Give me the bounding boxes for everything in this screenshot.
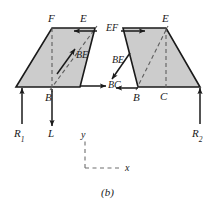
label-reaction-r1: R1 [14,128,24,142]
figure-caption: (b) [101,187,114,198]
label-reaction-r2-base: R [192,127,199,139]
label-right-base-b: B [133,92,140,103]
label-reaction-r2: R2 [192,128,202,142]
label-right-vertex-e: E [162,13,169,24]
figure-container: F E B E B C EF BC BE BE R1 L R2 y x (b) [0,0,218,208]
label-left-base-b: B [45,92,52,103]
right-member-group [123,26,200,90]
label-left-vertex-f: F [48,13,55,24]
label-right-base-c: C [160,91,167,102]
label-left-vertex-e: E [80,13,87,24]
label-axis-y: y [81,130,85,140]
label-force-be-right: BE [112,55,124,65]
label-load-l: L [48,128,54,139]
label-axis-x: x [125,163,129,173]
label-force-ef: EF [106,23,118,33]
label-force-be-left: BE [76,50,88,60]
label-force-bc: BC [108,80,121,90]
label-reaction-r1-subscript: 1 [21,135,25,144]
label-reaction-r1-base: R [14,127,21,139]
axis-key-group [85,141,122,168]
right-member-shape [123,28,200,87]
label-reaction-r2-subscript: 2 [199,135,203,144]
